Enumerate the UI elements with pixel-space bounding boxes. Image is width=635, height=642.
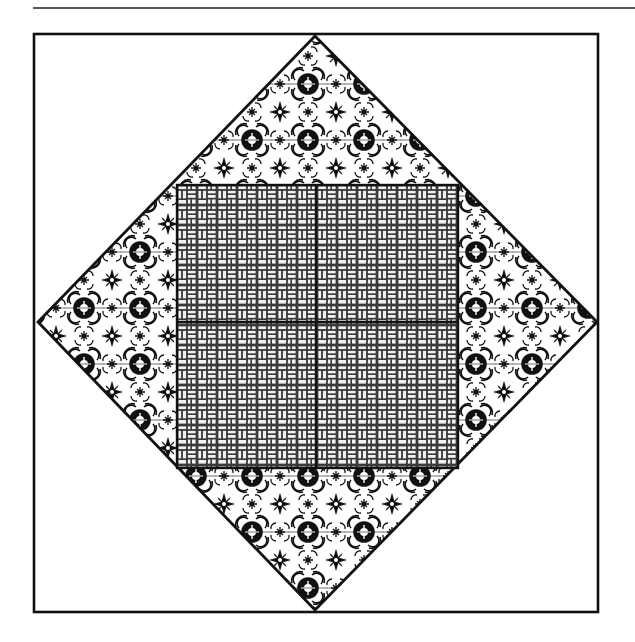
brick-patch-top-left [177,185,316,322]
quilt-block-diagram [0,0,635,642]
brick-patch-bottom-right [316,322,458,468]
brick-patch-bottom-left [177,322,316,468]
brick-patch-top-right [316,185,458,322]
center-square [177,185,458,468]
